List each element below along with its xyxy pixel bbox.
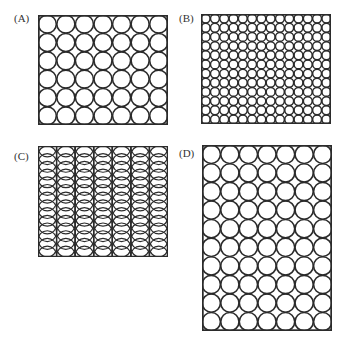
packed-circle — [131, 88, 149, 106]
packed-circle — [238, 42, 247, 51]
packed-circle — [303, 32, 312, 41]
packed-circle — [202, 201, 220, 219]
packed-circle — [275, 32, 284, 41]
panel-a-square-grid-packing — [38, 15, 168, 125]
packed-circle — [75, 33, 93, 51]
packed-circle — [220, 60, 229, 69]
packed-circle — [257, 23, 266, 32]
packed-circle — [303, 60, 312, 69]
packed-circle — [285, 60, 294, 69]
packed-circle — [257, 60, 266, 69]
packed-circle — [221, 145, 239, 163]
packed-circle — [229, 42, 238, 51]
packed-circle — [303, 69, 312, 78]
packed-circle — [258, 182, 276, 200]
packed-circle — [285, 51, 294, 60]
packed-circle — [285, 42, 294, 51]
packed-circle — [75, 15, 93, 33]
packed-circle — [229, 23, 238, 32]
packed-circle — [131, 33, 149, 51]
packed-circle — [210, 69, 219, 78]
packed-circle — [314, 164, 332, 182]
packed-circle — [258, 164, 276, 182]
packed-circle — [266, 106, 275, 115]
packed-circle — [248, 23, 257, 32]
packed-circle — [75, 107, 93, 125]
packed-circle — [266, 51, 275, 60]
packed-circle — [113, 15, 131, 33]
overlapping-circle — [57, 246, 76, 257]
panel-c-overlapping-packing — [38, 146, 168, 257]
packed-circle — [239, 238, 257, 256]
packed-circle — [266, 69, 275, 78]
packed-circle — [248, 78, 257, 87]
packed-circle — [258, 257, 276, 275]
panel-b-label: (B) — [179, 13, 194, 24]
packed-circle — [239, 294, 257, 312]
packed-circle — [210, 106, 219, 115]
packed-circle — [258, 294, 276, 312]
packed-circle — [314, 275, 332, 293]
packed-circle — [238, 51, 247, 60]
packed-circle — [210, 60, 219, 69]
packed-circle — [285, 23, 294, 32]
packed-circle — [294, 97, 303, 106]
packed-circle — [75, 88, 93, 106]
packed-circle — [239, 257, 257, 275]
packed-circle — [38, 70, 56, 88]
packed-circle — [94, 88, 112, 106]
packed-circle — [258, 238, 276, 256]
packed-circle — [57, 88, 75, 106]
packed-circle — [258, 313, 276, 331]
packed-circle — [295, 145, 313, 163]
packed-circle — [294, 32, 303, 41]
overlapping-circle — [94, 146, 113, 157]
packed-circle — [150, 88, 168, 106]
packed-circle — [313, 97, 322, 106]
packed-circle — [210, 97, 219, 106]
packed-circle — [285, 106, 294, 115]
packed-circle — [220, 97, 229, 106]
packed-circle — [239, 201, 257, 219]
packed-circle — [294, 51, 303, 60]
panel-frame — [39, 147, 168, 257]
packed-circle — [314, 220, 332, 238]
packed-circle — [210, 78, 219, 87]
packed-circle — [220, 78, 229, 87]
packed-circle — [57, 33, 75, 51]
packed-circle — [257, 51, 266, 60]
packed-circle — [220, 69, 229, 78]
packed-circle — [276, 275, 294, 293]
packed-circle — [113, 33, 131, 51]
packed-circle — [303, 106, 312, 115]
packed-circle — [257, 32, 266, 41]
packed-circle — [295, 164, 313, 182]
packed-circle — [229, 87, 238, 96]
packed-circle — [94, 52, 112, 70]
packed-circle — [238, 106, 247, 115]
packed-circle — [275, 51, 284, 60]
packed-circle — [314, 294, 332, 312]
packed-circle — [313, 87, 322, 96]
packed-circle — [314, 313, 332, 331]
packed-circle — [220, 42, 229, 51]
packed-circle — [229, 51, 238, 60]
overlapping-circle — [75, 146, 94, 157]
packed-circle — [238, 60, 247, 69]
packed-circle — [57, 70, 75, 88]
overlapping-circle — [38, 146, 57, 157]
packed-circle — [202, 238, 220, 256]
panel-d-label: (D) — [179, 148, 194, 159]
packed-circle — [248, 69, 257, 78]
packed-circle — [303, 87, 312, 96]
packed-circle — [210, 51, 219, 60]
packed-circle — [248, 32, 257, 41]
packed-circle — [276, 182, 294, 200]
packed-circle — [295, 275, 313, 293]
packed-circle — [285, 32, 294, 41]
packed-circle — [314, 182, 332, 200]
packed-circle — [258, 220, 276, 238]
packed-circle — [275, 23, 284, 32]
packed-circle — [131, 15, 149, 33]
packed-circle — [257, 87, 266, 96]
